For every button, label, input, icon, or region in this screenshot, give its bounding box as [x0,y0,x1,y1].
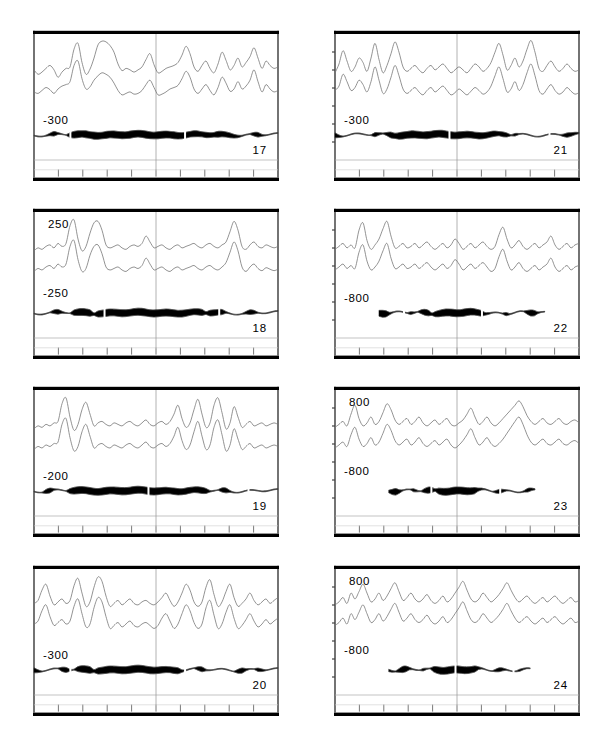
plot-panel-22: -80022 [332,208,582,360]
panel-bottom-axis [334,178,580,181]
panel-top-border [334,31,580,34]
amplitude-scale-label: 250 [48,219,69,231]
band-null-gap [499,483,501,498]
plot-panel-23: 800-80023 [332,386,582,538]
plot-panel-20: -30020 [31,565,281,717]
panel-number-18: 18 [253,323,267,335]
band-null-gap [147,483,149,498]
amplitude-scale-label: -800 [344,466,369,478]
panel-bottom-axis [33,356,279,359]
band-null-gap [430,483,432,498]
panel-bottom-axis [33,713,279,716]
band-null-gap [218,305,220,320]
amplitude-scale-label: -300 [43,115,68,127]
band-null-gap [69,127,71,142]
panel-number-22: 22 [554,323,568,335]
plot-panel-17: -30017 [31,30,281,182]
panel-plot-19 [31,386,281,538]
panel-plot-18 [31,208,281,360]
amplitude-scale-label: 800 [349,576,370,588]
band-null-gap [448,127,450,142]
panel-plot-22 [332,208,582,360]
panel-top-border [33,566,279,569]
plot-panel-19: -20019 [31,386,281,538]
panel-number-17: 17 [253,145,267,157]
panel-bottom-axis [334,713,580,716]
panel-top-border [33,387,279,390]
amplitude-scale-label: -250 [43,288,68,300]
band-null-gap [513,662,515,677]
band-null-gap [403,305,405,320]
panel-plot-23 [332,386,582,538]
panel-number-20: 20 [253,680,267,692]
amplitude-scale-label: 800 [349,397,370,409]
amplitude-scale-label: -200 [43,471,68,483]
band-null-gap [184,662,186,677]
panel-top-border [334,566,580,569]
multi-panel-figure: -30017-30021250-25018-80022-20019800-800… [0,0,611,749]
panel-plot-24 [332,565,582,717]
panel-bottom-axis [33,178,279,181]
panel-bottom-axis [334,534,580,537]
panel-top-border [33,209,279,212]
amplitude-scale-label: -800 [344,293,369,305]
amplitude-scale-label: -800 [344,645,369,657]
band-null-gap [104,305,106,320]
band-null-gap [481,305,483,320]
panel-top-border [334,387,580,390]
band-null-gap [549,127,551,142]
plot-panel-21: -30021 [332,30,582,182]
panel-number-23: 23 [554,501,568,513]
plot-panel-24: 800-80024 [332,565,582,717]
panel-plot-20 [31,565,281,717]
band-null-gap [184,127,186,142]
panel-number-24: 24 [554,680,568,692]
amplitude-scale-label: -300 [344,115,369,127]
plot-panel-18: 250-25018 [31,208,281,360]
band-null-gap [454,662,456,677]
panel-plot-21 [332,30,582,182]
panel-top-border [33,31,279,34]
amplitude-scale-label: -300 [43,650,68,662]
panel-top-border [334,209,580,212]
panel-number-21: 21 [554,145,568,157]
band-null-gap [248,483,250,498]
panel-bottom-axis [33,534,279,537]
panel-plot-17 [31,30,281,182]
panel-number-19: 19 [253,501,267,513]
band-null-gap [69,662,71,677]
panel-bottom-axis [334,356,580,359]
